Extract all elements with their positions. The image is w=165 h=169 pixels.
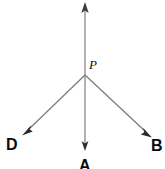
- ray-diagram-figure: P D A B: [0, 0, 165, 169]
- ray-left-line: [28, 75, 86, 131]
- ray-right-line: [85, 75, 147, 133]
- ray-endpoint-label-a: A: [79, 158, 91, 169]
- ray-endpoint-label-b: B: [151, 138, 163, 154]
- ray-lines-svg: [0, 0, 165, 169]
- ray-endpoint-label-d: D: [6, 137, 18, 153]
- vertex-label-p: P: [89, 58, 97, 71]
